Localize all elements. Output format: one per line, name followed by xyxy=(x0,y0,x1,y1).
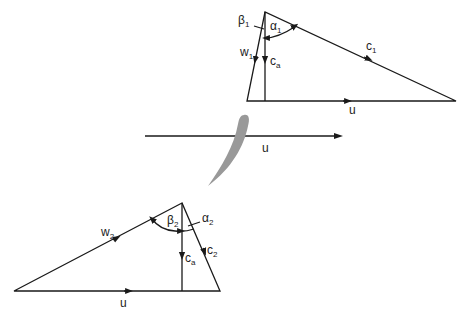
inlet-u-label: u xyxy=(349,103,356,117)
inlet-w-label: w1 xyxy=(239,45,254,61)
blade-u-label: u xyxy=(262,141,269,155)
blade-profile xyxy=(208,115,249,186)
outlet-beta-label: β2 xyxy=(167,213,179,229)
outlet-triangle-outline xyxy=(14,203,220,291)
outlet-c-label: c2 xyxy=(207,243,218,259)
outlet-velocity-triangle: β2 α2 w2 ca c2 u xyxy=(14,203,220,310)
inlet-alpha-label: α1 xyxy=(270,19,282,35)
diagram-canvas: β1 α1 w1 ca c1 u u β2 α2 w2 ca c2 u xyxy=(0,0,469,316)
blade-row: u xyxy=(145,115,343,186)
inlet-w-arrow xyxy=(255,56,256,60)
velocity-triangle-diagram: β1 α1 w1 ca c1 u u β2 α2 w2 ca c2 u xyxy=(0,0,469,316)
outlet-w-label: w2 xyxy=(100,225,115,241)
inlet-velocity-triangle: β1 α1 w1 ca c1 u xyxy=(238,12,456,117)
inlet-c-label: c1 xyxy=(366,39,377,55)
blade-speed-arrowhead xyxy=(334,133,343,139)
outlet-alpha-label: α2 xyxy=(202,211,214,227)
outlet-u-label: u xyxy=(120,296,127,310)
outlet-ca-label: ca xyxy=(185,251,196,267)
inlet-beta-label: β1 xyxy=(238,13,250,29)
inlet-ca-label: ca xyxy=(270,54,281,70)
